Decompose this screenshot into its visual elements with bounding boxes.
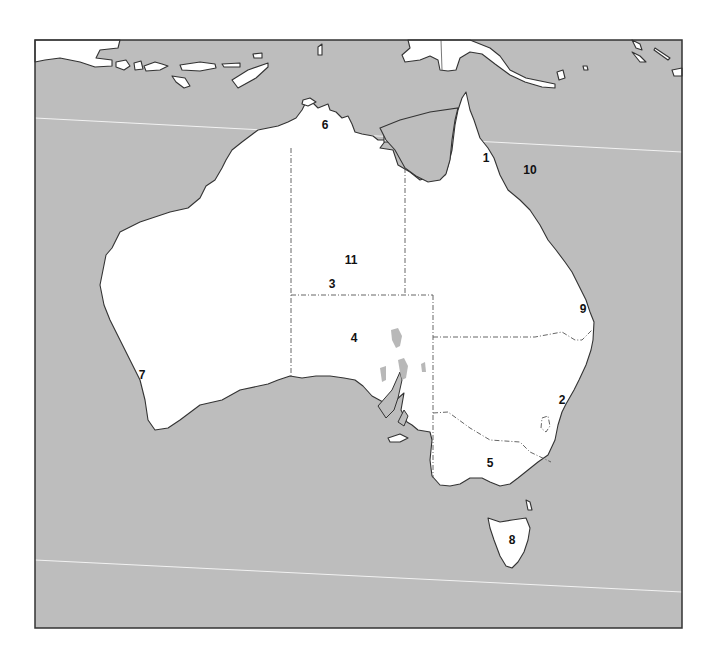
label-4: 4 (351, 332, 358, 344)
sunda-island-7 (253, 53, 262, 58)
label-7: 7 (139, 369, 146, 381)
png-island-1 (557, 70, 565, 80)
label-1: 1 (483, 152, 490, 164)
label-5: 5 (487, 457, 494, 469)
label-6: 6 (322, 119, 329, 131)
label-11: 11 (345, 254, 358, 266)
sunda-island-6 (222, 63, 240, 67)
label-3: 3 (329, 278, 336, 290)
australia-map (0, 0, 713, 656)
label-9: 9 (580, 303, 587, 315)
solomon-island-4 (672, 68, 682, 76)
label-8: 8 (509, 534, 516, 546)
label-10: 10 (523, 164, 536, 176)
png-island-2 (583, 66, 588, 70)
label-2: 2 (559, 394, 566, 406)
sunda-island-2 (134, 61, 143, 70)
